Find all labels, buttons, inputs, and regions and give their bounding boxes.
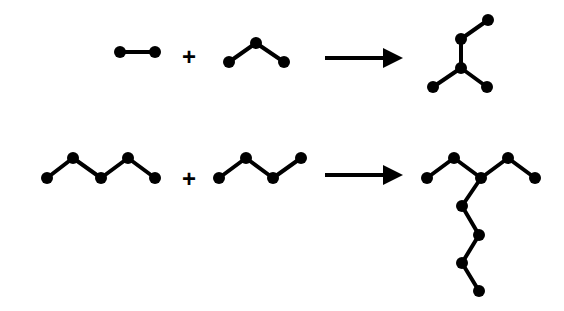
node [213, 172, 225, 184]
plus-sign-icon: + [182, 43, 196, 70]
node [41, 172, 53, 184]
node [473, 285, 485, 297]
node [455, 33, 467, 45]
product-branched-pentamer [427, 14, 494, 93]
node [95, 172, 107, 184]
reactant-dimer [114, 46, 161, 58]
node [240, 152, 252, 164]
node [475, 172, 487, 184]
node [114, 46, 126, 58]
node [456, 257, 468, 269]
reactant-trimer [223, 37, 290, 68]
node [149, 46, 161, 58]
node [223, 56, 235, 68]
reaction-1: + [114, 14, 494, 93]
node [427, 81, 439, 93]
node [278, 56, 290, 68]
product-branched-nonamer [421, 152, 541, 297]
node [295, 152, 307, 164]
node [502, 152, 514, 164]
node [421, 172, 433, 184]
node [529, 172, 541, 184]
reactant-pentamer [41, 152, 161, 184]
node [250, 37, 262, 49]
node [473, 229, 485, 241]
node [122, 152, 134, 164]
node [481, 81, 493, 93]
node [482, 14, 494, 26]
node [67, 152, 79, 164]
node [267, 172, 279, 184]
node [455, 62, 467, 74]
reaction-2: + [41, 152, 541, 297]
reactant-tetramer [213, 152, 307, 184]
plus-sign-icon: + [182, 165, 196, 192]
reaction-diagram: + + [0, 0, 564, 311]
node [149, 172, 161, 184]
node [448, 152, 460, 164]
node [456, 200, 468, 212]
